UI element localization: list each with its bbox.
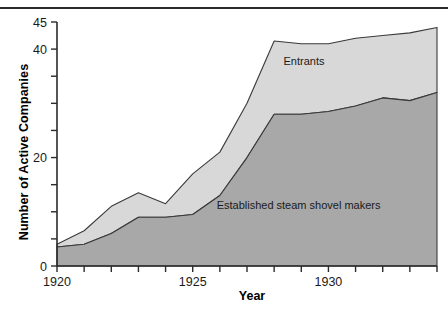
y-axis-tick-labels: 0204045 (33, 16, 47, 274)
series-label: Established steam shovel makers (217, 199, 381, 211)
y-axis-ticks (51, 22, 57, 266)
area-chart: 0204045 192019251930 EntrantsEstablished… (0, 0, 448, 310)
y-tick-label: 20 (33, 151, 47, 165)
y-tick-label: 40 (33, 43, 47, 57)
figure-canvas: Number of Active Companies Year 0204045 … (0, 0, 448, 310)
x-axis-ticks (57, 266, 437, 272)
x-tick-label: 1925 (179, 275, 207, 289)
y-tick-label: 0 (40, 260, 47, 274)
series-label: Entrants (284, 55, 325, 67)
x-tick-label: 1930 (315, 275, 343, 289)
x-axis-tick-labels: 192019251930 (43, 275, 342, 289)
stacked-areas (57, 27, 437, 266)
y-tick-label: 45 (33, 16, 47, 30)
x-tick-label: 1920 (43, 275, 71, 289)
